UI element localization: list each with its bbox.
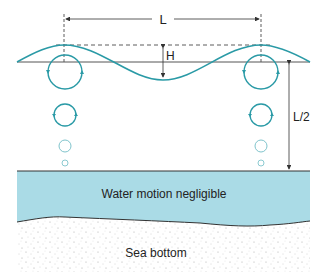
wavelength-label: L bbox=[159, 12, 166, 27]
orbit-arrow-icon bbox=[52, 114, 56, 117]
sea-bottom-label: Sea bottom bbox=[125, 246, 186, 260]
orbit-arrow-icon bbox=[276, 70, 280, 74]
left-orbit-column bbox=[46, 55, 84, 166]
orbit-arrow-icon bbox=[242, 70, 246, 74]
orbit-arrow-icon bbox=[248, 114, 252, 117]
right-orbit-column bbox=[242, 55, 280, 166]
orbit-circle bbox=[255, 140, 267, 152]
wave-base-depth-label: L/2 bbox=[293, 110, 310, 124]
orbit-circle bbox=[250, 104, 272, 126]
orbit-arrow-icon bbox=[80, 70, 84, 74]
orbit-circle bbox=[258, 160, 264, 166]
orbit-circle bbox=[62, 160, 68, 166]
orbit-circle bbox=[48, 55, 82, 89]
wave-orbital-motion-diagram: L H L/2 Water motion negligible Sea bott… bbox=[0, 0, 328, 280]
orbit-arrow-icon bbox=[270, 113, 274, 116]
orbit-circle bbox=[54, 104, 76, 126]
orbit-circle bbox=[59, 140, 71, 152]
orbit-arrow-icon bbox=[74, 113, 78, 116]
orbit-arrow-icon bbox=[46, 70, 50, 74]
wave-height-label: H bbox=[166, 49, 175, 63]
negligible-motion-label: Water motion negligible bbox=[102, 187, 227, 201]
